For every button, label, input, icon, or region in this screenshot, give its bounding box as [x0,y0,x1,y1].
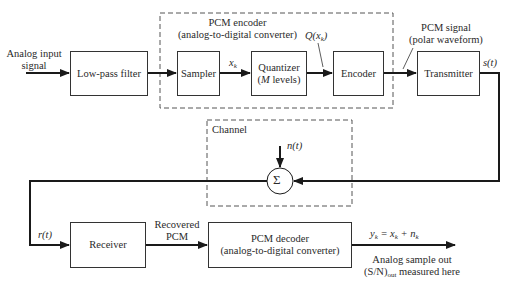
receiver-block: Receiver [70,222,146,268]
rt-var: r(t) [38,229,52,240]
quantizer-levels-text: levels) [270,74,301,85]
xk-label: xk [229,57,237,72]
qxk-label: Q(xk) [305,30,327,45]
eq-plus: + n [398,228,416,239]
output-equation: yk = xk + nk [370,228,419,243]
encoder-group-subtitle: (analog-to-digital converter) [160,29,315,41]
receiver-label: Receiver [89,239,126,251]
pcm-decoder-block: PCM decoder (analog-to-digital converter… [208,222,352,268]
nk-sub: k [415,233,418,241]
recovered-line2: PCM [148,231,206,243]
channel-title: Channel [212,124,247,135]
pcm-encoder-group-label: PCM encoder (analog-to-digital converter… [160,17,315,41]
qxk-close: ) [324,30,328,41]
lowpass-filter-block: Low-pass filter [70,51,148,96]
pcm-signal-label: PCM signal (polar waveform) [402,22,490,46]
sum-symbol: Σ [273,174,281,186]
leader-qxk [318,43,323,67]
output-line2: (S/N)out measured here [360,266,464,281]
decoder-title: PCM decoder [251,233,309,245]
rt-label: r(t) [38,229,52,241]
transmitter-label: Transmitter [424,68,473,80]
pcm-signal-line2: (polar waveform) [402,34,490,46]
xk-sub: k [234,62,237,70]
encoder-block: Encoder [333,51,384,96]
sampler-block: Sampler [177,51,220,96]
decoder-subtitle: (analog-to-digital converter) [220,245,339,257]
pcm-signal-line1: PCM signal [402,22,490,34]
recovered-pcm-label: Recovered PCM [148,219,206,243]
quantizer-m: M [261,74,270,85]
encoder-group-title: PCM encoder [160,17,315,29]
transmitter-block: Transmitter [417,51,480,96]
input-label-line1: Analog input [2,48,66,60]
sn-label: (S/N) [364,266,387,277]
encoder-label: Encoder [341,68,376,80]
input-signal-label: Analog input signal [2,48,66,72]
st-label: s(t) [483,57,497,69]
quantizer-levels: (M levels) [258,74,301,86]
input-label-line2: signal [2,60,66,72]
st-var: s(t) [483,57,497,68]
nt-var: n(t) [287,140,302,151]
leader-pcm-signal [403,48,413,69]
output-line1: Analog sample out [360,254,464,266]
nt-label: n(t) [287,140,302,152]
output-description: Analog sample out (S/N)out measured here [360,254,464,281]
qxk-var: Q(x [305,30,321,41]
recovered-line1: Recovered [148,219,206,231]
channel-label: Channel [212,124,247,136]
eq-mid: = x [378,228,395,239]
quantizer-label: Quantizer [258,62,299,74]
sigma-icon: Σ [273,172,281,187]
sampler-label: Sampler [181,68,216,80]
sn-post: measured here [396,266,460,277]
lowpass-filter-label: Low-pass filter [77,68,141,80]
quantizer-block: Quantizer (M levels) [251,51,307,96]
